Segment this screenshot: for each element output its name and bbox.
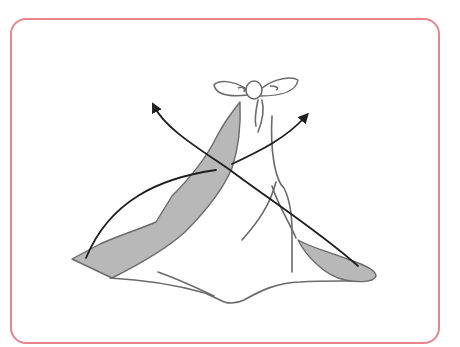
left-shaded-corner [72, 102, 240, 278]
right-shaded-corner [298, 240, 376, 282]
bow-knot [214, 78, 298, 99]
arrow-center-to-upper-right [232, 116, 306, 164]
furoshiki-illustration [0, 0, 460, 347]
